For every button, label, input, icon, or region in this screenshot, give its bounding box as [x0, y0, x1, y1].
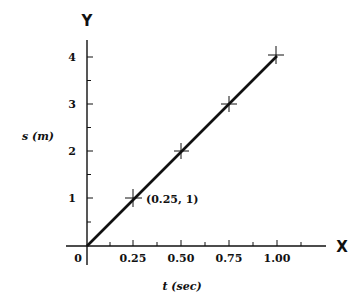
- y-tick-label: 2: [68, 145, 76, 158]
- x-axis-title: t (sec): [162, 280, 201, 293]
- y-tick-label: 4: [68, 51, 76, 64]
- x-axis-letter: X: [336, 238, 348, 256]
- x-tick-label: 0.50: [168, 252, 195, 265]
- y-tick-label: 3: [68, 98, 76, 111]
- x-tick-label: 0.25: [120, 252, 147, 265]
- y-axis-letter: Y: [81, 12, 94, 30]
- origin-label: 0: [74, 252, 82, 265]
- y-axis-title: s (m): [22, 130, 54, 143]
- chart: 4 3 2 1 0 0.25 0.50 0.75 1.00 Y X s (m) …: [0, 0, 359, 306]
- x-tick-label: 1.00: [264, 252, 291, 265]
- y-tick-label: 1: [68, 192, 76, 205]
- point-annotation: (0.25, 1): [146, 193, 199, 206]
- x-ticks: [110, 240, 301, 246]
- x-tick-label: 0.75: [216, 252, 243, 265]
- y-ticks: [87, 57, 93, 222]
